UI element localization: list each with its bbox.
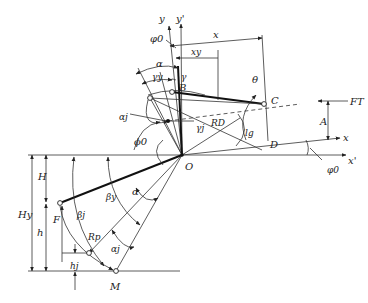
- label-C: C: [271, 95, 279, 106]
- label-beta-j: βj: [76, 210, 85, 220]
- node-F: [58, 201, 63, 206]
- label-A: A: [319, 116, 327, 127]
- label-xy-dim: xy: [191, 47, 202, 57]
- point-alpha-j: [166, 119, 170, 123]
- diagram-canvas: y y' φ0 x xy α γy γ B θ C FT A αj γj RD …: [0, 0, 368, 303]
- label-Hy: Hy: [17, 209, 33, 220]
- node-upper-left: [148, 96, 153, 101]
- label-alpha-j-low: αj: [111, 244, 120, 254]
- ray-OM: [116, 155, 182, 271]
- leader-phi0-right: [310, 148, 322, 160]
- label-phi0-mid: ϕ0: [134, 136, 148, 147]
- point-O: [180, 153, 184, 157]
- lever-OF: [60, 155, 182, 203]
- label-phi0-top: φ0: [150, 33, 164, 44]
- label-theta: θ: [252, 74, 258, 85]
- label-x-prime-axis: x': [348, 155, 356, 166]
- arc-gamma: [172, 79, 177, 80]
- arc-alpha-low: [136, 188, 158, 200]
- label-alpha-j: αj: [119, 112, 128, 122]
- label-lg: lg: [245, 128, 254, 138]
- label-phi0-right: φ0: [327, 165, 339, 175]
- line-lg: [150, 98, 262, 150]
- arc-O: [157, 140, 164, 165]
- mechanism-diagram: y y' φ0 x xy α γy γ B θ C FT A αj γj RD …: [0, 0, 368, 303]
- node-B: [170, 90, 175, 95]
- label-alpha-low: α: [132, 186, 139, 197]
- label-F: F: [52, 214, 61, 225]
- arc-phi0-right: [306, 140, 308, 155]
- label-x-dim: x: [213, 29, 219, 40]
- label-hj: hj: [70, 261, 79, 271]
- node-Rp: [87, 251, 92, 256]
- label-beta-y: βy: [105, 192, 117, 202]
- label-h: h: [37, 227, 43, 238]
- dashed-line: [168, 104, 300, 121]
- label-D: D: [269, 139, 278, 150]
- vertical-CD: [262, 35, 268, 141]
- node-C: [262, 102, 267, 107]
- label-x-axis: x: [343, 132, 349, 143]
- label-FT: FT: [349, 96, 365, 107]
- label-M: M: [109, 281, 121, 292]
- x-axis: [182, 138, 340, 155]
- label-H: H: [37, 171, 47, 182]
- arc-F-M: [60, 206, 113, 270]
- label-RD: RD: [210, 118, 225, 128]
- node-M: [114, 269, 119, 274]
- label-gamma: γ: [181, 72, 187, 82]
- ray-Rp: [89, 155, 182, 253]
- label-y: y: [158, 13, 165, 24]
- label-y-prime: y': [175, 13, 184, 24]
- label-B: B: [178, 82, 186, 93]
- label-gamma-y: γy: [152, 72, 163, 82]
- label-O: O: [185, 161, 193, 172]
- label-Rp: Rp: [87, 232, 101, 242]
- label-gamma-j: γj: [196, 123, 204, 133]
- label-alpha-top: α: [156, 58, 163, 69]
